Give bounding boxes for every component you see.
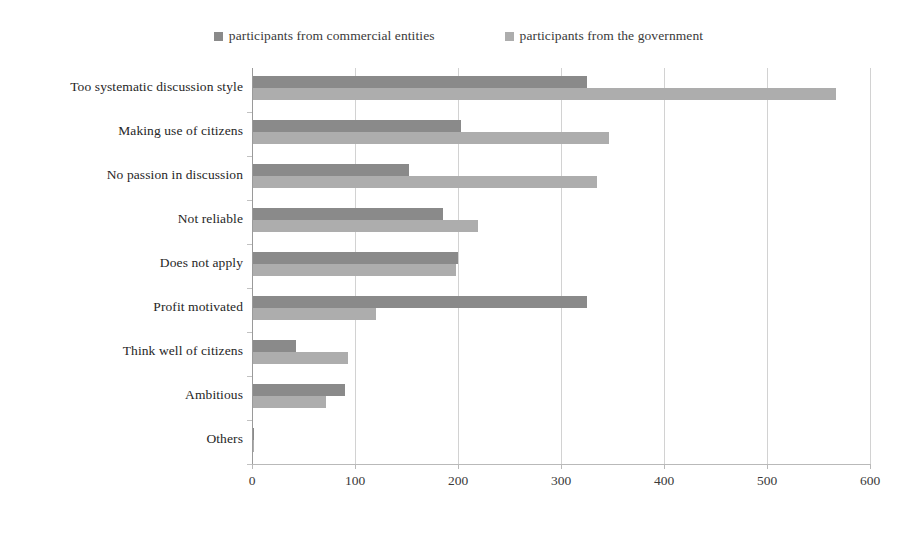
y-tick-mark xyxy=(247,376,252,377)
bar[interactable] xyxy=(252,264,456,276)
y-tick-mark xyxy=(247,200,252,201)
bar-group xyxy=(252,428,870,452)
chart-legend: participants from commercial entities pa… xyxy=(0,28,917,44)
bar-chart: participants from commercial entities pa… xyxy=(0,0,917,542)
y-axis-label-8: Others xyxy=(3,431,243,447)
bar[interactable] xyxy=(252,308,376,320)
bar[interactable] xyxy=(252,208,443,220)
plot-area xyxy=(252,68,870,464)
gridline-600 xyxy=(870,68,871,464)
x-tick-mark-0 xyxy=(252,464,253,469)
x-tick-mark-600 xyxy=(870,464,871,469)
bar[interactable] xyxy=(252,252,458,264)
x-tick-mark-400 xyxy=(664,464,665,469)
legend-label-government: participants from the government xyxy=(520,28,704,44)
x-tick-label-500: 500 xyxy=(757,473,777,489)
bar-group xyxy=(252,384,870,408)
y-axis-label-7: Ambitious xyxy=(3,387,243,403)
x-tick-mark-200 xyxy=(458,464,459,469)
x-tick-mark-100 xyxy=(355,464,356,469)
y-axis-label-1: Making use of citizens xyxy=(3,123,243,139)
bar-group xyxy=(252,120,870,144)
legend-entry-government[interactable]: participants from the government xyxy=(505,28,704,44)
bar[interactable] xyxy=(252,340,296,352)
y-axis-label-4: Does not apply xyxy=(3,255,243,271)
y-tick-mark xyxy=(247,464,252,465)
bar[interactable] xyxy=(252,120,461,132)
bar[interactable] xyxy=(252,396,326,408)
bar[interactable] xyxy=(252,164,409,176)
bar[interactable] xyxy=(252,384,345,396)
x-tick-mark-500 xyxy=(767,464,768,469)
y-tick-mark xyxy=(247,244,252,245)
legend-entry-commercial[interactable]: participants from commercial entities xyxy=(214,28,435,44)
y-axis-line xyxy=(252,68,253,465)
y-tick-mark xyxy=(247,332,252,333)
legend-swatch-commercial xyxy=(214,32,223,41)
y-tick-mark xyxy=(247,288,252,289)
x-tick-label-400: 400 xyxy=(654,473,674,489)
x-tick-mark-300 xyxy=(561,464,562,469)
bar[interactable] xyxy=(252,76,587,88)
y-axis-category-labels: Too systematic discussion styleMaking us… xyxy=(0,68,243,464)
bar-group xyxy=(252,296,870,320)
legend-swatch-government xyxy=(505,32,514,41)
y-axis-label-3: Not reliable xyxy=(3,211,243,227)
x-tick-label-0: 0 xyxy=(249,473,256,489)
x-tick-label-100: 100 xyxy=(345,473,365,489)
y-axis-label-5: Profit motivated xyxy=(3,299,243,315)
bar-group xyxy=(252,164,870,188)
bar-group xyxy=(252,252,870,276)
y-axis-label-2: No passion in discussion xyxy=(3,167,243,183)
legend-label-commercial: participants from commercial entities xyxy=(229,28,435,44)
bar-group xyxy=(252,76,870,100)
bar[interactable] xyxy=(252,352,348,364)
y-axis-label-6: Think well of citizens xyxy=(3,343,243,359)
y-tick-mark xyxy=(247,112,252,113)
x-tick-label-200: 200 xyxy=(448,473,468,489)
bar-group xyxy=(252,340,870,364)
bar[interactable] xyxy=(252,220,478,232)
y-tick-mark xyxy=(247,420,252,421)
y-axis-label-0: Too systematic discussion style xyxy=(3,79,243,95)
bar-group xyxy=(252,208,870,232)
bar[interactable] xyxy=(252,132,609,144)
bar[interactable] xyxy=(252,176,597,188)
bar[interactable] xyxy=(252,88,836,100)
x-tick-label-300: 300 xyxy=(551,473,571,489)
y-tick-mark xyxy=(247,156,252,157)
bar[interactable] xyxy=(252,296,587,308)
x-tick-label-600: 600 xyxy=(860,473,880,489)
